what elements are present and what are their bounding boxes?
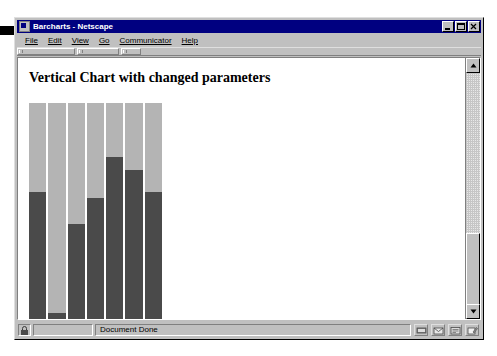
bar-track [48, 103, 65, 319]
menu-view-label: View [72, 36, 89, 45]
scroll-up-button[interactable] [466, 58, 480, 73]
bar-6 [125, 170, 142, 319]
minimize-button[interactable] [442, 21, 454, 32]
page-edge-marker [0, 26, 14, 35]
chevron-down-icon [470, 309, 477, 314]
status-icons-group [411, 324, 479, 336]
menu-item-file[interactable]: File [20, 35, 43, 46]
newsgroup-icon[interactable] [448, 324, 462, 336]
menu-communicator-label: Communicator [120, 36, 172, 45]
bar-4 [87, 198, 104, 319]
collapsed-toolbar-strip [17, 47, 481, 56]
progress-bar [33, 324, 93, 336]
content-frame: Vertical Chart with changed parameters [17, 57, 481, 320]
netscape-document-icon [19, 21, 30, 32]
mail-icon[interactable] [431, 324, 445, 336]
scroll-down-button[interactable] [466, 304, 480, 319]
bar-5 [106, 157, 123, 319]
close-button[interactable] [468, 21, 480, 32]
toolbar-grip-navigation[interactable] [17, 48, 75, 55]
bar-3 [68, 224, 85, 319]
security-padlock-icon[interactable] [18, 324, 31, 336]
minimize-icon [443, 22, 453, 31]
menu-edit-label: Edit [48, 36, 62, 45]
page-title: Vertical Chart with changed parameters [29, 70, 270, 86]
online-status-icon[interactable] [414, 324, 428, 336]
bar-chart [29, 103, 162, 319]
status-message-box: Document Done [95, 324, 411, 336]
bar-track [29, 103, 46, 319]
menu-item-edit[interactable]: Edit [43, 35, 67, 46]
menu-item-communicator[interactable]: Communicator [115, 35, 177, 46]
status-message: Document Done [100, 325, 158, 334]
menu-item-view[interactable]: View [67, 35, 94, 46]
status-bar: Document Done [17, 322, 481, 337]
toolbar-grip-personal[interactable] [121, 48, 141, 55]
window-title: Barcharts - Netscape [33, 22, 441, 31]
bar-1 [29, 192, 46, 319]
bar-track [125, 103, 142, 319]
chevron-up-icon [470, 63, 477, 68]
menu-go-label: Go [99, 36, 110, 45]
browser-window: Barcharts - Netscape File Edit View Go C… [14, 17, 484, 340]
menu-item-go[interactable]: Go [94, 35, 115, 46]
vertical-scrollbar[interactable] [465, 58, 480, 319]
maximize-icon [456, 22, 466, 31]
bar-track [106, 103, 123, 319]
bar-2 [48, 313, 65, 319]
bar-track [87, 103, 104, 319]
composer-icon[interactable] [465, 324, 479, 336]
menu-item-help[interactable]: Help [177, 35, 203, 46]
bar-7 [145, 192, 162, 319]
bar-track [68, 103, 85, 319]
close-icon [469, 22, 479, 31]
menu-file-label: File [25, 36, 38, 45]
maximize-button[interactable] [455, 21, 467, 32]
bar-track [145, 103, 162, 319]
menu-bar: File Edit View Go Communicator Help [17, 34, 481, 47]
menu-help-label: Help [182, 36, 198, 45]
toolbar-grip-location[interactable] [77, 48, 119, 55]
title-bar[interactable]: Barcharts - Netscape [17, 20, 481, 33]
page-canvas: Vertical Chart with changed parameters [18, 58, 465, 319]
